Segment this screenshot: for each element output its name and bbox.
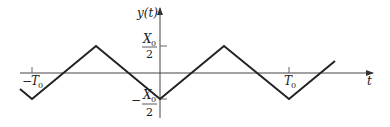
plot-canvas: y(t) t X 0 2 − X 0 2 − T 0 T 0 <box>0 0 390 127</box>
svg-text:−: − <box>131 93 141 107</box>
triangle-wave-figure: y(t) t X 0 2 − X 0 2 − T 0 T 0 <box>0 0 390 127</box>
svg-text:0: 0 <box>151 95 156 104</box>
svg-text:2: 2 <box>146 48 153 61</box>
label-neg-T0: − T 0 <box>22 74 43 90</box>
y-axis-label: y(t) <box>136 6 158 20</box>
svg-text:0: 0 <box>38 81 43 90</box>
svg-text:2: 2 <box>146 106 153 119</box>
svg-text:0: 0 <box>291 81 296 90</box>
x-axis-label: t <box>367 74 372 88</box>
label-T0: T 0 <box>284 74 296 90</box>
label-X0-half: X 0 2 <box>142 32 157 61</box>
